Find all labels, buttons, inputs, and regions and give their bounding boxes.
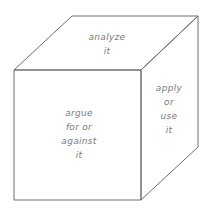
right-face-line: apply — [149, 81, 189, 95]
front-face-line: against — [44, 134, 114, 148]
front-face-label: argue for or against it — [44, 106, 114, 162]
right-face-line: use — [149, 109, 189, 123]
top-face-line: analyze — [72, 30, 142, 44]
front-face-line: for or — [44, 120, 114, 134]
front-face-line: it — [44, 148, 114, 162]
front-face-line: argue — [44, 106, 114, 120]
right-face-line: or — [149, 95, 189, 109]
right-face-label: apply or use it — [149, 81, 189, 137]
top-face-label: analyze it — [72, 30, 142, 58]
top-face-line: it — [72, 44, 142, 58]
right-face-line: it — [149, 123, 189, 137]
